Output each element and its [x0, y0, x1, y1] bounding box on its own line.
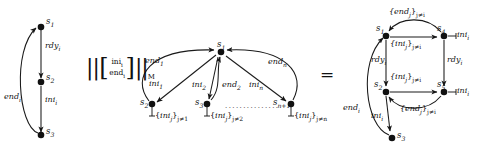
automata-composition-figure: s1 s2 s3 rdyi inii endi || [ inii endi ]…	[0, 0, 483, 150]
right-state-s5-label: s5	[437, 80, 445, 91]
right-selfloop-label-s4: inii	[457, 31, 469, 41]
right-edge-r2-r3	[386, 96, 390, 131]
left-state-s1-label: s1	[46, 17, 54, 28]
right-edge-label-ini-bottom: inii	[371, 112, 383, 122]
mid-edge-label-inin: inin	[249, 81, 263, 91]
node-right-s3	[389, 135, 396, 142]
mid-ellipsis: ...............	[225, 102, 279, 110]
right-state-s1-label: s1	[376, 24, 384, 35]
right-edge-label-end-left: endi	[343, 104, 360, 114]
node-left-s2	[38, 79, 45, 86]
operator-bracket-close: ]	[126, 58, 135, 78]
node-right-s2	[383, 89, 390, 96]
node-left-s3	[38, 132, 45, 139]
operator-left-bars: ||	[86, 58, 99, 78]
operator-denominator: endi	[109, 68, 125, 79]
mid-edge-label-ini1: ini1	[149, 80, 163, 90]
right-selfloop-label-s5: inii	[457, 87, 469, 97]
left-edge-label-end: endi	[4, 93, 21, 103]
right-edge-r4-r1	[389, 20, 441, 32]
mid-selfloop-label-s2: {inij}j≠1	[155, 112, 188, 122]
right-selfloop-r4	[448, 33, 456, 39]
right-state-s2-label: s2	[374, 80, 382, 91]
right-edge-label-iniset-mid: {inij}j≠i	[390, 73, 421, 83]
right-edge-label-rdy-left: rdyi	[371, 56, 386, 66]
node-left-s1	[38, 24, 45, 31]
left-edge-label-rdy: rdyi	[45, 42, 60, 52]
node-mid-s3	[204, 101, 211, 108]
mid-selfloop-label-sn1: {inij}j≠n	[294, 112, 327, 122]
mid-state-s2-label: s2	[140, 98, 148, 109]
mid-edge-c-s2	[157, 55, 216, 102]
right-edge-label-endset-bottom: {endj}j≠i	[400, 105, 436, 115]
operator-bracket-open: [	[99, 58, 108, 78]
left-edge-s3-s1	[20, 28, 38, 133]
right-edge-label-rdy-right: rdyi	[447, 56, 462, 66]
right-edge-label-endset-top: {endj}j≠i	[389, 8, 425, 18]
mid-state-s1-label: s1	[217, 40, 225, 51]
mid-selfloop-label-s3: {inij}j≠2	[210, 112, 243, 122]
mid-edge-s3-c	[211, 57, 220, 100]
left-state-s2-label: s2	[46, 73, 54, 84]
left-state-s3-label: s3	[46, 127, 54, 138]
right-state-s3-label: s3	[397, 131, 405, 142]
mid-edge-c-s3	[209, 57, 218, 99]
left-edge-label-ini: inii	[45, 96, 57, 106]
mid-edge-label-endn: endn	[268, 58, 287, 68]
node-mid-s2	[149, 101, 156, 108]
right-edge-label-iniset-top: {inij}j≠i	[390, 40, 421, 50]
right-state-s4-label: s4	[437, 24, 445, 35]
mid-edge-label-ini2: ini2	[192, 81, 206, 91]
mid-edge-label-end2: end2	[222, 81, 241, 91]
operator-numerator: inii	[109, 57, 125, 68]
operator-substitution: inii endi	[109, 57, 125, 80]
right-selfloop-r5	[448, 89, 456, 95]
mid-edge-label-end1: end1	[145, 57, 164, 67]
mid-state-s3-label: s3	[195, 98, 203, 109]
equals-sign: =	[320, 64, 334, 84]
